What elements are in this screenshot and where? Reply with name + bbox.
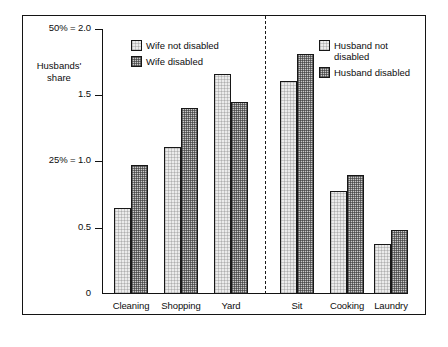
bar-cooking-husband-disabled [347, 175, 364, 294]
y-tick-label-2-0: 50% = 2.0 [49, 22, 91, 33]
y-tick-0-5 [95, 228, 102, 229]
y-tick-label-0: 0 [86, 287, 91, 298]
bar-yard-wife-disabled [231, 102, 248, 294]
legend-label-husband-disabled: Husband disabled [334, 67, 410, 78]
panel-divider [265, 16, 266, 294]
x-tick-label-laundry: Laundry [374, 300, 408, 311]
y-tick-label-1-5: 1.5 [78, 88, 91, 99]
x-tick-label-shopping: Shopping [161, 300, 200, 311]
bar-shopping-wife-disabled [181, 108, 198, 294]
bar-sit-husband-disabled [297, 54, 314, 294]
bar-cleaning-wife-disabled [131, 165, 148, 294]
legend-swatch-dark-icon [131, 56, 142, 67]
y-tick-label-1-0: 25% = 1.0 [49, 154, 91, 165]
x-tick-label-yard: Yard [222, 300, 241, 311]
y-axis-title: Husbands' share [23, 60, 95, 84]
y-axis-title-line1: Husbands' [23, 60, 95, 72]
bar-cooking-husband-not-disabled [330, 191, 347, 294]
bar-sit-husband-not-disabled [280, 81, 297, 294]
bar-laundry-husband-not-disabled [374, 244, 391, 294]
y-tick-2-0 [95, 29, 102, 30]
x-tick-label-cleaning: Cleaning [113, 300, 150, 311]
legend-label-wife-disabled: Wife disabled [146, 56, 203, 67]
x-tick-label-sit: Sit [292, 300, 303, 311]
legend-husband: Husband not disabled Husband disabled [319, 40, 410, 83]
legend-item-husband-not-disabled: Husband not disabled [319, 40, 410, 62]
legend-item-wife-not-disabled: Wife not disabled [131, 40, 219, 51]
legend-swatch-light-icon [131, 40, 142, 51]
legend-swatch-dark-icon [319, 67, 330, 78]
x-tick-label-cooking: Cooking [330, 300, 364, 311]
y-axis-line [102, 29, 103, 294]
bar-cleaning-wife-not-disabled [114, 208, 131, 294]
chart-figure-frame: Husbands' share 50% = 2.0 1.5 25% = 1.0 … [22, 15, 426, 315]
bar-yard-wife-not-disabled [214, 74, 231, 294]
y-tick-1-5 [95, 95, 102, 96]
y-tick-1-0 [95, 161, 102, 162]
legend-label-wife-not-disabled: Wife not disabled [146, 40, 219, 51]
y-tick-label-0-5: 0.5 [78, 221, 91, 232]
legend-item-husband-disabled: Husband disabled [319, 67, 410, 78]
y-axis-title-line2: share [23, 72, 95, 84]
legend-item-wife-disabled: Wife disabled [131, 56, 219, 67]
legend-swatch-light-icon [319, 40, 330, 51]
bar-shopping-wife-not-disabled [164, 147, 181, 294]
bar-laundry-husband-disabled [391, 230, 408, 294]
legend-wife: Wife not disabled Wife disabled [131, 40, 219, 72]
legend-label-husband-not-disabled: Husband not disabled [334, 40, 388, 62]
